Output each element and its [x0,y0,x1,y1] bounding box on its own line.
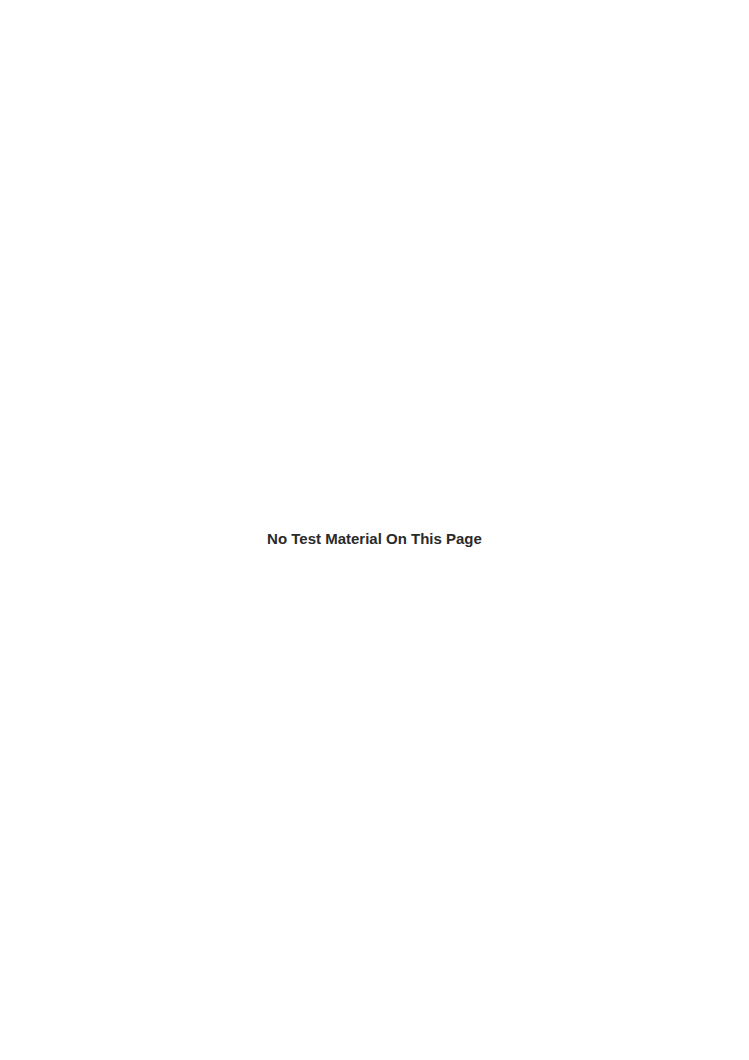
no-test-material-notice: No Test Material On This Page [0,530,749,547]
document-page: No Test Material On This Page [0,0,749,1060]
